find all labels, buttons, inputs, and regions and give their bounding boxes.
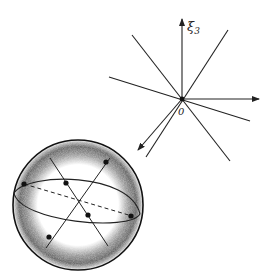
ray-line: [146, 30, 228, 157]
sphere: [13, 140, 143, 270]
xi3-label: ξ3: [187, 19, 200, 36]
line-bundle: [109, 19, 259, 161]
origin-label: 0: [178, 106, 185, 117]
origin-point: [180, 97, 185, 102]
ray-arrow: [138, 99, 182, 150]
diagram-canvas: ξ3 0: [0, 0, 268, 276]
